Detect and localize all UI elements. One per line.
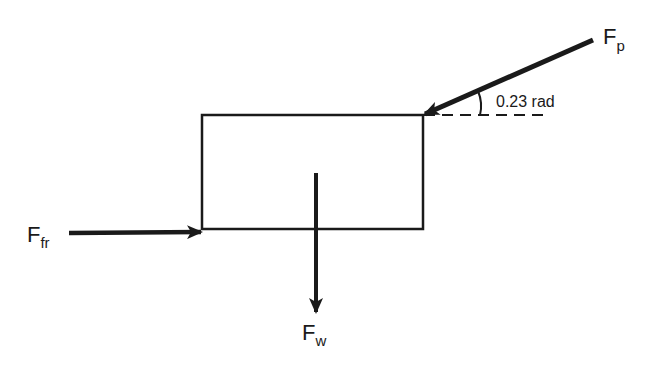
angle-arc bbox=[478, 91, 481, 115]
block bbox=[202, 115, 423, 229]
friction-force-label: Ffr bbox=[27, 222, 50, 251]
push-force-label: Fp bbox=[603, 24, 625, 54]
free-body-diagram: Fp 0.23 rad Ffr Fw bbox=[0, 0, 665, 374]
angle-label: 0.23 rad bbox=[496, 93, 555, 110]
friction-force-arrow bbox=[69, 232, 201, 233]
weight-force-label: Fw bbox=[302, 320, 326, 349]
